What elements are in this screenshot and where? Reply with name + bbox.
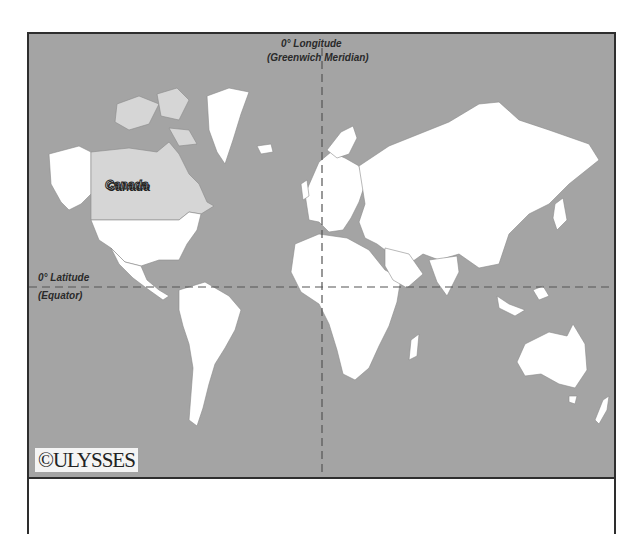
map-frame: 0° Longitude (Greenwich Meridian) 0° Lat…	[27, 32, 616, 534]
country-label-canada: Canada	[105, 178, 148, 192]
world-map-graphic	[29, 34, 614, 477]
equator-label: (Equator)	[38, 290, 82, 301]
meridian-label: (Greenwich Meridian)	[267, 52, 369, 63]
latitude-label: 0° Latitude	[38, 272, 89, 283]
world-map: 0° Longitude (Greenwich Meridian) 0° Lat…	[29, 34, 614, 479]
copyright-logo: ©ULYSSES	[35, 448, 138, 472]
longitude-label: 0° Longitude	[281, 38, 342, 49]
